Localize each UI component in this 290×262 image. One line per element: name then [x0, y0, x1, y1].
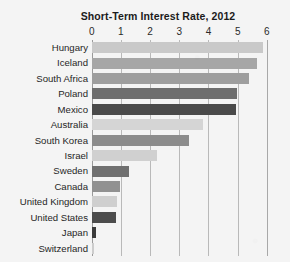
- bar-sweden: [92, 166, 129, 177]
- plot-area: [92, 40, 267, 256]
- y-tick-label-united-kingdom: United Kingdom: [0, 194, 88, 209]
- bar-israel: [92, 150, 157, 161]
- bar-rows: [92, 40, 267, 256]
- bar-row: [92, 225, 267, 240]
- y-tick-label-australia: Australia: [0, 117, 88, 132]
- y-tick-label-israel: Israel: [0, 148, 88, 163]
- x-tick-label-5: 5: [235, 26, 241, 37]
- bar-row: [92, 163, 267, 178]
- bar-south-africa: [92, 73, 250, 84]
- bar-row: [92, 210, 267, 225]
- bar-row: [92, 241, 267, 256]
- bar-united-states: [92, 212, 116, 223]
- x-tick-label-3: 3: [177, 26, 183, 37]
- bar-row: [92, 86, 267, 101]
- bar-row: [92, 102, 267, 117]
- bar-mexico: [92, 104, 236, 115]
- bar-row: [92, 71, 267, 86]
- x-tick-label-4: 4: [206, 26, 212, 37]
- bar-hungary: [92, 42, 263, 53]
- bar-chart: Short-Term Interest Rate, 2012 0123456 H…: [0, 0, 290, 262]
- y-tick-label-sweden: Sweden: [0, 163, 88, 178]
- y-tick-label-hungary: Hungary: [0, 40, 88, 55]
- bar-poland: [92, 88, 237, 99]
- y-tick-label-united-states: United States: [0, 210, 88, 225]
- chart-title: Short-Term Interest Rate, 2012: [0, 10, 290, 22]
- y-tick-label-japan: Japan: [0, 225, 88, 240]
- x-tick-label-2: 2: [147, 26, 153, 37]
- bar-japan: [92, 227, 96, 238]
- bar-united-kingdom: [92, 196, 117, 207]
- x-tick-label-6: 6: [264, 26, 270, 37]
- bar-south-korea: [92, 135, 189, 146]
- bar-canada: [92, 181, 120, 192]
- y-tick-label-canada: Canada: [0, 179, 88, 194]
- bar-iceland: [92, 58, 257, 69]
- y-tick-label-poland: Poland: [0, 86, 88, 101]
- x-axis-tick-labels: 0123456: [0, 26, 290, 40]
- y-axis-category-labels: HungaryIcelandSouth AfricaPolandMexicoAu…: [0, 40, 88, 256]
- gridline-6: [267, 40, 268, 256]
- bar-row: [92, 55, 267, 70]
- y-tick-label-south-korea: South Korea: [0, 133, 88, 148]
- y-tick-label-iceland: Iceland: [0, 55, 88, 70]
- bar-row: [92, 194, 267, 209]
- bar-row: [92, 133, 267, 148]
- y-tick-label-mexico: Mexico: [0, 102, 88, 117]
- bar-australia: [92, 119, 204, 130]
- y-tick-label-south-africa: South Africa: [0, 71, 88, 86]
- x-tick-label-1: 1: [118, 26, 124, 37]
- bar-row: [92, 40, 267, 55]
- bar-row: [92, 117, 267, 132]
- x-tick-label-0: 0: [89, 26, 95, 37]
- y-tick-label-switzerland: Switzerland: [0, 241, 88, 256]
- bar-switzerland: [92, 243, 94, 254]
- bar-row: [92, 179, 267, 194]
- bar-row: [92, 148, 267, 163]
